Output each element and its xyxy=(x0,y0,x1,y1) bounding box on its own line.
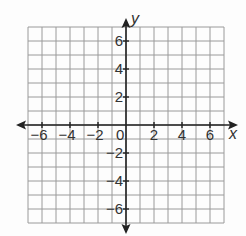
x-tick-label: −6 xyxy=(30,126,47,143)
x-tick-label: −2 xyxy=(86,126,103,143)
x-tick-label: −4 xyxy=(58,126,75,143)
y-tick-label: −2 xyxy=(106,144,123,161)
y-tick-label: 2 xyxy=(115,88,123,105)
y-tick-label: −4 xyxy=(106,172,123,189)
y-tick-label: −6 xyxy=(106,200,123,217)
x-tick-label: 4 xyxy=(178,126,186,143)
axes xyxy=(16,18,238,234)
y-tick-label: 6 xyxy=(115,32,123,49)
x-tick-label: 2 xyxy=(150,126,158,143)
x-tick-label: 6 xyxy=(206,126,214,143)
origin-label: 0 xyxy=(116,126,124,143)
y-tick-label: 4 xyxy=(115,60,123,77)
x-axis-label: x xyxy=(228,125,238,142)
coordinate-grid: −6−4−2246642−2−4−6 x y 0 xyxy=(0,0,246,236)
y-axis-label: y xyxy=(130,10,140,27)
